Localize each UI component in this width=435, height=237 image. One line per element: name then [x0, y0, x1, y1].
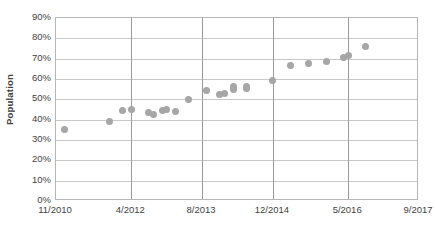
y-axis-tick-label: 30% — [3, 134, 51, 144]
y-axis-tick-label: 70% — [3, 53, 51, 63]
x-axis-tick-label: 4/2012 — [116, 204, 145, 215]
scatter-chart: Population 90%80%70%60%50%40%30%20%10%0%… — [0, 0, 435, 237]
data-point — [230, 83, 237, 90]
y-axis-tick-label: 80% — [3, 33, 51, 43]
x-axis-tick-label: 5/2016 — [333, 204, 362, 215]
data-point — [221, 90, 228, 97]
data-point — [269, 77, 276, 84]
horizontal-gridline — [56, 38, 417, 39]
y-axis-tick-labels: 90%80%70%60%50%40%30%20%10%0% — [0, 0, 51, 237]
data-point — [61, 126, 68, 133]
data-point — [287, 62, 294, 69]
x-axis-tick-label: 11/2010 — [38, 204, 72, 215]
x-axis-tick-label: 9/2017 — [403, 204, 432, 215]
data-point — [150, 111, 157, 118]
data-point — [305, 60, 312, 67]
data-point — [362, 43, 369, 50]
horizontal-gridline — [56, 181, 417, 182]
data-point — [323, 58, 330, 65]
vertical-gridline — [273, 18, 274, 199]
y-axis-tick-label: 90% — [3, 12, 51, 22]
data-point — [172, 108, 179, 115]
data-point — [106, 118, 113, 125]
data-point — [243, 83, 250, 90]
data-point — [185, 96, 192, 103]
horizontal-gridline — [56, 99, 417, 100]
y-axis-tick-label: 60% — [3, 73, 51, 83]
data-point — [345, 52, 352, 59]
horizontal-gridline — [56, 160, 417, 161]
x-axis-tick-label: 8/2013 — [187, 204, 216, 215]
vertical-gridline — [348, 18, 349, 199]
data-point — [163, 106, 170, 113]
horizontal-gridline — [56, 79, 417, 80]
horizontal-gridline — [56, 140, 417, 141]
y-axis-tick-label: 20% — [3, 155, 51, 165]
y-axis-tick-label: 50% — [3, 94, 51, 104]
y-axis-tick-label: 10% — [3, 175, 51, 185]
data-point — [119, 107, 126, 114]
data-point — [128, 106, 135, 113]
y-axis-tick-label: 40% — [3, 114, 51, 124]
plot-area — [55, 17, 418, 200]
data-point — [203, 87, 210, 94]
x-axis-tick-label: 12/2014 — [255, 204, 289, 215]
horizontal-gridline — [56, 59, 417, 60]
vertical-gridline — [202, 18, 203, 199]
